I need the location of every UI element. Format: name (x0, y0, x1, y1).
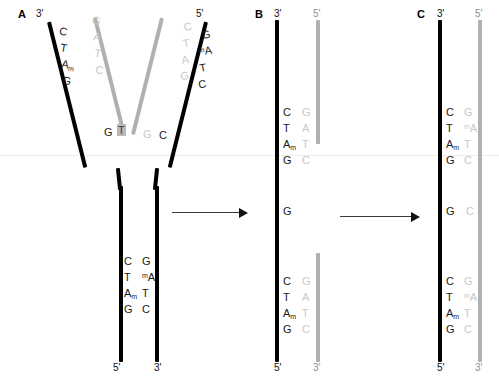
panel-b-daughter-strand-lower (316, 253, 320, 362)
base: G (283, 321, 296, 337)
panel-a-left-parent-bases: C T Am G (50, 23, 82, 90)
arrow-a-to-b (172, 208, 248, 218)
base: T (142, 285, 155, 301)
base: G (464, 273, 477, 289)
panel-b-daughter-strand-upper (316, 20, 320, 144)
panel-b-top-right-bases: G A T C (302, 104, 311, 168)
panel-c-end-top-right: 5' (475, 8, 482, 19)
base-methylated: Am (446, 136, 459, 152)
base-methylated: Am (124, 285, 137, 301)
panel-c-end-top-left: 3' (437, 8, 444, 19)
base: C (446, 104, 459, 120)
base: C (446, 273, 459, 289)
base: C (283, 273, 296, 289)
base: C (142, 301, 155, 317)
panel-b-parent-strand (275, 20, 279, 362)
panel-c-end-bottom-left: 5' (437, 362, 444, 373)
base: T (283, 120, 296, 136)
base-methylated: Am (283, 136, 296, 152)
base-methylated: Am (283, 305, 296, 321)
panel-a-stem-right-bases: G mA T C (142, 253, 155, 317)
base: C (302, 152, 311, 168)
base: C (183, 18, 194, 35)
base: G (142, 253, 155, 269)
base: C (197, 73, 220, 92)
base: G (302, 273, 311, 289)
base-methylated: mA (464, 120, 477, 136)
panel-a-end-bottom-left: 5' (113, 362, 120, 373)
base: T (446, 289, 459, 305)
base: A (302, 289, 311, 305)
panel-a-fork-base-right: C (159, 129, 167, 141)
base: G (283, 152, 296, 168)
base: G (61, 72, 73, 89)
base: T (302, 305, 311, 321)
panel-c-top-right-bases: G mA T C (464, 104, 477, 168)
panel-b-end-bottom-left: 5' (274, 362, 281, 373)
panel-b-letter: B (255, 8, 263, 20)
panel-a-stem-left-bases: C T Am G (124, 253, 137, 317)
base-methylated: Am (60, 56, 76, 74)
panel-a-right-parent-bases: G mA T C (201, 26, 221, 91)
scan-artifact-line (0, 155, 499, 156)
panel-c-bottom-right-bases: G mA T C (464, 273, 477, 337)
panel-a-end-top-right: 5' (196, 8, 203, 19)
base: T (464, 136, 477, 152)
panel-a-right-daughter-strand (131, 18, 164, 135)
figure-canvas: A 3' 5' 5' 3' C T Am G G A T (0, 0, 499, 382)
base: C (302, 321, 311, 337)
arrow-b-to-c (340, 212, 420, 222)
panel-c-parent-strand (438, 20, 442, 362)
arrow-head (411, 212, 420, 222)
base-methylated: mA (142, 269, 155, 285)
panel-a-fork-base-gray: G (143, 128, 152, 140)
base: C (124, 253, 137, 269)
base: G (446, 321, 459, 337)
base: T (124, 269, 137, 285)
base: G (464, 104, 477, 120)
base: G (201, 26, 212, 43)
panel-c-end-bottom-right: 3' (475, 362, 482, 373)
panel-b-end-top-right: 5' (313, 8, 320, 19)
panel-a-right-stem-strand (155, 186, 159, 362)
base: T (283, 289, 296, 305)
panel-b-end-bottom-right: 3' (313, 362, 320, 373)
panel-b-bottom-right-bases: G A T C (302, 273, 311, 337)
base: A (92, 28, 110, 47)
panel-c-bottom-left-bases: C T Am G (446, 273, 459, 337)
panel-c-middle-left-base: G (446, 205, 455, 217)
panel-c-letter: C (417, 8, 425, 20)
panel-c-daughter-strand (478, 20, 482, 362)
panel-c-top-left-bases: C T Am G (446, 104, 459, 168)
arrow-head (239, 208, 248, 218)
panel-c-middle-right-base: C (466, 205, 474, 217)
panel-a-fork-base-left: G (104, 126, 113, 138)
base: T (302, 136, 311, 152)
panel-a-letter: A (18, 8, 26, 20)
base-methylated: mA (197, 41, 214, 59)
base: G (302, 104, 311, 120)
arrow-shaft (340, 216, 412, 217)
panel-a-fork-mismatch-base: T (117, 124, 126, 136)
base: G (124, 301, 137, 317)
base: T (464, 305, 477, 321)
base: C (464, 152, 477, 168)
base-methylated: Am (446, 305, 459, 321)
base: G (446, 152, 459, 168)
panel-b-end-top-left: 3' (274, 8, 281, 19)
base: C (283, 104, 296, 120)
base-methylated: mA (464, 289, 477, 305)
panel-b-top-left-bases: C T Am G (283, 104, 296, 168)
base: C (94, 61, 105, 78)
base: A (302, 120, 311, 136)
panel-b-bottom-left-bases: C T Am G (283, 273, 296, 337)
panel-a-end-top-left: 3' (36, 8, 43, 19)
panel-b-gap-base: G (283, 205, 292, 217)
base: C (464, 321, 477, 337)
panel-a-end-bottom-right: 3' (154, 362, 161, 373)
base: T (446, 120, 459, 136)
arrow-shaft (172, 212, 240, 213)
panel-a-left-stem-strand (119, 186, 123, 362)
